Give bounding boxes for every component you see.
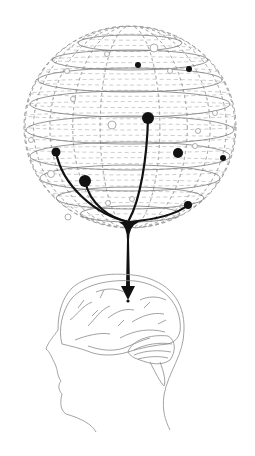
inactive-point (48, 171, 55, 178)
illustration: Wireframe sphere with scattered points; … (0, 0, 255, 456)
active-point (142, 112, 154, 124)
inactive-point (150, 44, 158, 52)
latitude-ring (78, 35, 182, 51)
parallel-line (51, 191, 209, 197)
head-outline (46, 274, 184, 432)
sphere-to-brain-diagram (0, 0, 255, 456)
inactive-point (65, 69, 70, 74)
brain (60, 281, 180, 386)
inactive-point (193, 144, 198, 149)
inactive-point (105, 52, 110, 57)
latitude-ring (52, 50, 208, 70)
brainstem (150, 362, 165, 386)
active-point (220, 155, 226, 161)
active-point (135, 62, 141, 68)
parallel-line (63, 203, 196, 209)
inactive-point (29, 138, 34, 143)
parallel-line (30, 158, 230, 164)
funnel-arrow-shaft (119, 222, 139, 287)
arrow-head-icon (121, 286, 135, 300)
inactive-point (130, 197, 135, 202)
inactive-point (106, 201, 111, 206)
active-point (184, 201, 192, 209)
active-point (173, 148, 183, 158)
cerebrum-outline (60, 281, 180, 355)
parallel-line (24, 124, 236, 130)
inactive-point (213, 111, 218, 116)
inactive-point (108, 121, 116, 129)
parallel-line (27, 102, 234, 108)
target-point (126, 299, 129, 302)
inactive-point (71, 97, 76, 102)
parallel-line (35, 79, 225, 85)
parallel-line (25, 135, 236, 141)
latitude-rings (26, 35, 234, 222)
active-point (79, 175, 91, 187)
inactive-point (65, 214, 71, 220)
inactive-point (168, 69, 173, 74)
inactive-point (196, 129, 201, 134)
parallel-line (51, 57, 209, 63)
active-point (52, 148, 61, 157)
active-point (186, 66, 192, 72)
latitude-ring (30, 91, 230, 117)
